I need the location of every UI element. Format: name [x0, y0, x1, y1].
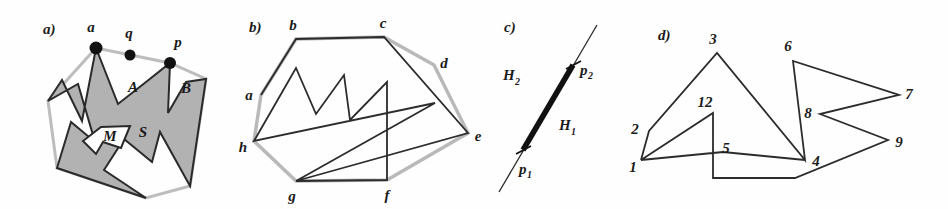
region-label-S: S — [139, 124, 147, 140]
panel-b: b) b c d e f g h a — [225, 0, 490, 209]
point-label-b: b — [289, 17, 297, 33]
panel-d-label: d) — [658, 27, 671, 44]
point-label-p2: p 2 — [578, 62, 593, 81]
point-label-6: 6 — [784, 38, 792, 54]
panel-d-svg: d) 1 2 3 12 5 4 6 7 8 9 — [630, 0, 948, 209]
panel-c: c) p 1 p 2 H 2 H 1 — [480, 0, 650, 209]
figure-container: a) a q p A B S M b) b c d e f g h a — [0, 0, 948, 209]
point-label-1: 1 — [629, 159, 637, 175]
halfplane-label-h1: H 1 — [558, 117, 576, 137]
svg-text:2: 2 — [587, 70, 593, 81]
point-label-12: 12 — [698, 94, 714, 110]
point-label-q: q — [125, 25, 133, 41]
panel-c-label: c) — [504, 19, 516, 36]
panel-a: a) a q p A B S M — [0, 0, 240, 209]
point-label-g: g — [287, 188, 296, 204]
panel-a-svg: a) a q p A B S M — [0, 0, 240, 209]
svg-text:p: p — [578, 62, 588, 78]
halfplane-label-h2: H 2 — [502, 67, 520, 87]
polygon-chain-d — [641, 53, 899, 178]
region-label-M: M — [102, 128, 117, 144]
point-label-4: 4 — [811, 153, 820, 169]
point-label-5: 5 — [722, 140, 730, 156]
point-label-a: a — [87, 19, 95, 35]
point-q-dot — [125, 50, 136, 61]
point-label-3: 3 — [708, 31, 717, 47]
star-polygon-s — [48, 48, 206, 198]
svg-text:H: H — [558, 117, 572, 133]
svg-text:H: H — [502, 67, 516, 83]
point-label-9: 9 — [895, 134, 903, 150]
panel-b-svg: b) b c d e f g h a — [225, 0, 490, 209]
point-label-f: f — [385, 187, 392, 203]
point-label-d: d — [440, 55, 448, 71]
svg-text:1: 1 — [527, 169, 532, 180]
point-label-h: h — [239, 139, 247, 155]
polygon-chain-b — [254, 37, 468, 181]
region-label-A: A — [127, 79, 138, 95]
point-label-p: p — [172, 34, 182, 50]
point-label-p1: p 1 — [517, 161, 532, 180]
panel-c-svg: c) p 1 p 2 H 2 H 1 — [480, 0, 650, 209]
panel-d: d) 1 2 3 12 5 4 6 7 8 9 — [630, 0, 948, 209]
region-label-B: B — [180, 80, 191, 96]
segment-p1-p2 — [523, 65, 573, 150]
point-a-dot — [90, 42, 103, 55]
point-label-7: 7 — [905, 86, 913, 102]
point-label-c: c — [380, 15, 387, 31]
svg-text:p: p — [517, 161, 527, 177]
point-label-2: 2 — [630, 121, 639, 137]
svg-text:2: 2 — [514, 76, 520, 87]
point-label-8: 8 — [804, 105, 812, 121]
svg-text:1: 1 — [571, 126, 576, 137]
panel-a-label: a) — [43, 21, 56, 38]
point-label-a-b: a — [245, 87, 253, 103]
panel-b-label: b) — [249, 19, 262, 36]
point-p-dot — [164, 57, 176, 69]
